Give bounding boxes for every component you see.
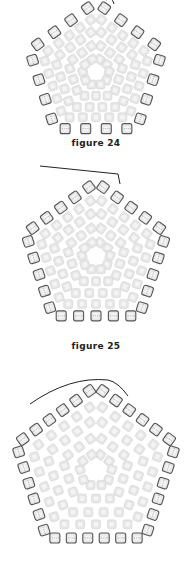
square-bead-icon <box>53 255 64 266</box>
square-bead-icon <box>113 486 124 497</box>
square-bead-icon <box>133 80 144 91</box>
square-bead-icon <box>33 73 46 86</box>
square-bead-icon <box>97 1 111 15</box>
square-bead-icon <box>128 232 141 245</box>
square-bead-icon <box>45 113 58 126</box>
square-bead-icon <box>106 216 119 229</box>
square-bead-icon <box>63 29 76 42</box>
square-bead-icon <box>133 470 144 481</box>
square-bead-icon <box>92 520 101 529</box>
square-bead-icon <box>95 14 108 27</box>
square-bead-icon <box>133 443 146 456</box>
square-bead-icon <box>91 311 101 321</box>
square-bead-icon <box>99 533 109 543</box>
square-bead-icon <box>16 432 30 446</box>
square-bead-icon <box>74 34 87 47</box>
square-bead-icon <box>123 520 132 529</box>
square-bead-icon <box>56 403 70 417</box>
square-bead-icon <box>147 73 160 86</box>
square-bead-icon <box>40 211 54 225</box>
square-bead-icon <box>134 429 147 442</box>
square-bead-icon <box>78 494 87 503</box>
square-bead-icon <box>57 268 68 279</box>
square-bead-icon <box>66 533 76 543</box>
square-bead-icon <box>78 113 87 122</box>
square-bead-icon <box>92 113 101 122</box>
square-bead-icon <box>117 473 128 484</box>
square-bead-icon <box>45 429 58 442</box>
square-bead-icon <box>157 235 170 248</box>
square-bead-icon <box>38 524 51 537</box>
square-bead-icon <box>149 423 163 437</box>
square-bead-icon <box>96 401 109 414</box>
square-bead-icon <box>49 278 60 289</box>
square-bead-icon <box>71 425 84 438</box>
square-bead-icon <box>29 451 40 462</box>
square-bead-icon <box>85 222 98 235</box>
square-bead-icon <box>85 40 98 53</box>
square-bead-icon <box>45 265 56 276</box>
square-bead-icon <box>131 25 145 39</box>
square-bead-icon <box>46 443 59 456</box>
square-bead-icon <box>28 493 41 506</box>
square-bead-icon <box>26 221 40 235</box>
square-bead-icon <box>123 499 134 510</box>
square-bead-icon <box>52 232 65 245</box>
square-bead-icon <box>105 34 118 47</box>
square-bead-icon <box>84 208 97 221</box>
square-bead-icon <box>98 103 107 112</box>
square-bead-icon <box>92 494 101 503</box>
square-bead-icon <box>29 423 43 437</box>
square-bead-icon <box>112 289 121 298</box>
square-bead-icon <box>96 416 109 429</box>
square-bead-icon <box>34 466 45 477</box>
square-bead-icon <box>81 124 91 134</box>
square-bead-icon <box>72 103 81 112</box>
square-bead-icon <box>122 124 132 134</box>
square-bead-icon <box>109 410 122 423</box>
square-bead-icon <box>152 252 165 265</box>
square-bead-icon <box>51 59 62 70</box>
square-bead-icon <box>128 485 139 496</box>
square-bead-icon <box>137 68 148 79</box>
square-bead-icon <box>121 434 134 447</box>
square-bead-icon <box>95 208 108 221</box>
square-bead-icon <box>39 55 50 66</box>
square-bead-icon <box>62 449 75 462</box>
square-bead-icon <box>110 190 124 204</box>
square-bead-icon <box>96 265 105 274</box>
pentagon-beadwork-24 <box>0 0 192 150</box>
square-bead-icon <box>59 83 70 94</box>
square-bead-icon <box>59 434 72 447</box>
square-bead-icon <box>62 224 75 237</box>
square-bead-icon <box>85 289 94 298</box>
square-bead-icon <box>42 413 56 427</box>
square-bead-icon <box>40 252 51 263</box>
square-bead-icon <box>126 71 137 82</box>
square-bead-icon <box>126 311 136 321</box>
square-bead-icon <box>36 239 47 250</box>
square-bead-icon <box>58 420 71 433</box>
square-bead-icon <box>68 74 79 85</box>
square-bead-icon <box>126 49 139 62</box>
square-bead-icon <box>69 394 83 408</box>
figure-26-diagram <box>0 370 192 564</box>
square-bead-icon <box>124 201 138 215</box>
square-bead-icon <box>63 247 74 258</box>
square-bead-icon <box>118 247 129 258</box>
square-bead-icon <box>60 520 69 529</box>
square-bead-icon <box>142 481 153 492</box>
square-bead-icon <box>137 456 148 467</box>
square-bead-icon <box>127 292 138 303</box>
square-bead-icon <box>116 29 129 42</box>
square-bead-icon <box>51 93 62 104</box>
square-bead-icon <box>43 456 54 467</box>
square-bead-icon <box>39 93 52 106</box>
square-bead-icon <box>49 243 60 254</box>
square-bead-icon <box>17 461 30 474</box>
square-bead-icon <box>69 508 78 517</box>
square-bead-icon <box>33 508 46 521</box>
square-bead-icon <box>84 416 97 429</box>
square-bead-icon <box>105 299 114 308</box>
square-bead-icon <box>144 239 155 250</box>
